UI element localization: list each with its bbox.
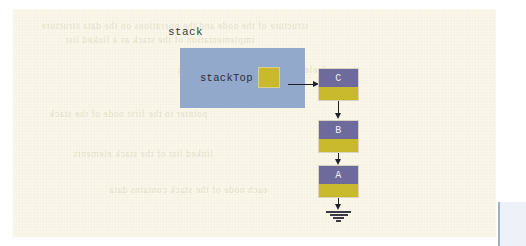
ground-bar [333, 217, 344, 219]
node-link-b [319, 139, 358, 152]
stack-caption: stack [168, 26, 203, 38]
arrowhead-c-to-b [335, 113, 341, 119]
node-data-b: B [319, 121, 358, 139]
list-node-a: A [318, 165, 359, 198]
scanned-page [13, 9, 496, 237]
pointer-arrow-stacktop-to-c [288, 84, 313, 85]
ground-bar [336, 220, 341, 222]
ground-bar [326, 211, 351, 213]
figure-screenshot: structure of the node and the operations… [0, 0, 526, 246]
node-data-a: A [319, 166, 358, 184]
null-ground-icon [326, 211, 351, 223]
stacktop-label: stackTop [200, 72, 253, 84]
ground-bar [330, 214, 348, 216]
stacktop-pointer-cell [258, 67, 280, 88]
arrowhead-a-to-null [335, 204, 341, 210]
stacktop-row: stackTop [200, 67, 280, 88]
node-link-c [319, 87, 358, 100]
stack-object-box: stackTop [180, 48, 305, 108]
node-link-a [319, 184, 358, 197]
list-node-c: C [318, 68, 359, 101]
node-data-c: C [319, 69, 358, 87]
page-edge-artifact [498, 202, 526, 246]
list-node-b: B [318, 120, 359, 153]
